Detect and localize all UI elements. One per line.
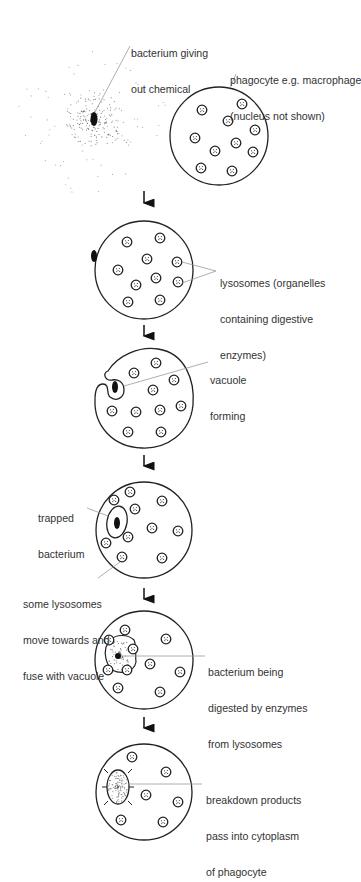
bacterium-icon — [91, 112, 98, 126]
label-line: pass into cytoplasm — [206, 830, 301, 842]
label-line: out chemical — [131, 83, 208, 95]
label-line: move towards and — [23, 634, 110, 646]
label-line: vacuole — [210, 374, 247, 386]
label-line: forming — [210, 410, 247, 422]
label-line: breakdown products — [206, 794, 301, 806]
phagocyte-cell-6 — [96, 744, 192, 840]
phagocyte-cell-2 — [91, 221, 193, 319]
label-line: bacterium being — [208, 666, 308, 678]
vacuole-forming-label: vacuole forming — [210, 350, 247, 434]
lysosomes-fuse-label: some lysosomes move towards and fuse wit… — [23, 574, 110, 694]
phagocyte-cell-3 — [95, 348, 193, 448]
phagocyte-cell-5 — [95, 611, 193, 709]
label-line: bacterium giving — [131, 47, 208, 59]
label-line: fuse with vacuole — [23, 670, 110, 682]
label-line: some lysosomes — [23, 598, 110, 610]
trapped-leader-line — [87, 508, 108, 516]
phagocyte-cell-4 — [96, 482, 192, 578]
label-line: bacterium — [38, 548, 85, 560]
label-line: containing digestive — [220, 313, 325, 325]
trapped-bacterium-label: trapped bacterium — [38, 488, 85, 572]
label-line: from lysosomes — [208, 738, 308, 750]
lysosomes-leader-lines — [182, 262, 216, 283]
bacterium-label: bacterium giving out chemical — [131, 23, 208, 107]
label-line: phagocyte e.g. macrophage — [230, 74, 361, 86]
label-line: of phagocyte — [206, 866, 301, 878]
label-line: lysosomes (organelles — [220, 277, 325, 289]
breakdown-label: breakdown products pass into cytoplasm o… — [206, 770, 301, 882]
bacterium-leader-line — [95, 46, 130, 112]
digestion-label: bacterium being digested by enzymes from… — [208, 642, 308, 762]
phagocyte-label: phagocyte e.g. macrophage (nucleus not s… — [230, 50, 361, 134]
label-line: digested by enzymes — [208, 702, 308, 714]
label-line: (nucleus not shown) — [230, 110, 361, 122]
label-line: trapped — [38, 512, 85, 524]
